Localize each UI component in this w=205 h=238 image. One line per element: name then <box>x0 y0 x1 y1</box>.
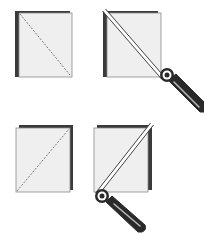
panel-top-right-fabric-square <box>103 9 205 112</box>
rotary-cutter-icon <box>160 68 204 112</box>
panel-bottom-right-fabric-square <box>94 123 154 232</box>
cutter-wheel-hub <box>165 73 170 78</box>
quilt-cutting-diagram <box>0 0 204 238</box>
rotary-cutter-icon <box>95 189 146 232</box>
cutter-handle-highlight <box>114 204 140 226</box>
cutter-wheel-hub <box>100 194 105 199</box>
panel-bottom-left-fabric-square <box>16 125 73 192</box>
panel-top-left-fabric-square <box>15 11 72 77</box>
